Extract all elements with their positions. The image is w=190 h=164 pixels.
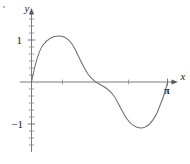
x-axis-arrowhead: [172, 79, 179, 84]
x-axis-label: x: [180, 70, 186, 82]
graph-canvas: y x 1 −1 π: [0, 0, 190, 164]
y-tick-label-minus-one: −1: [11, 118, 23, 130]
y-tick-label-one: 1: [17, 34, 23, 46]
x-tick-label-pi: π: [164, 85, 170, 96]
image-speck-artifact: [3, 6, 5, 8]
y-axis-arrowhead: [29, 8, 34, 15]
function-graph-figure: y x 1 −1 π: [0, 0, 190, 164]
y-axis-label: y: [24, 2, 30, 14]
